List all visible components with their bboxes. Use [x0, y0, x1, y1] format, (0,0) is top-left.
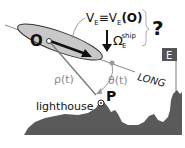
- omega-arrowhead: [102, 44, 112, 52]
- question-mark: ?: [152, 16, 164, 40]
- rho-label: ρ(t): [54, 73, 74, 86]
- lighthouse-point-center: [100, 102, 102, 104]
- origin-label: O: [30, 32, 43, 50]
- lighthouse-label: lighthouse: [36, 100, 94, 113]
- theta-arrowhead: [96, 88, 102, 94]
- long-label: LONG: [137, 71, 167, 89]
- theta-label: θ(t): [108, 74, 128, 87]
- origin-point: [47, 39, 52, 44]
- velocity-label: VE≡VE(O): [86, 11, 143, 27]
- omega-label: ΩEship: [113, 32, 136, 50]
- brace: [142, 10, 149, 46]
- east-label: E: [166, 50, 172, 61]
- point-p-label: P: [106, 88, 116, 104]
- navigation-diagram: O VE≡VE(O) ΩEship ? LONG ρ(t) θ(t) P lig…: [0, 0, 185, 148]
- label-leader: [72, 18, 85, 38]
